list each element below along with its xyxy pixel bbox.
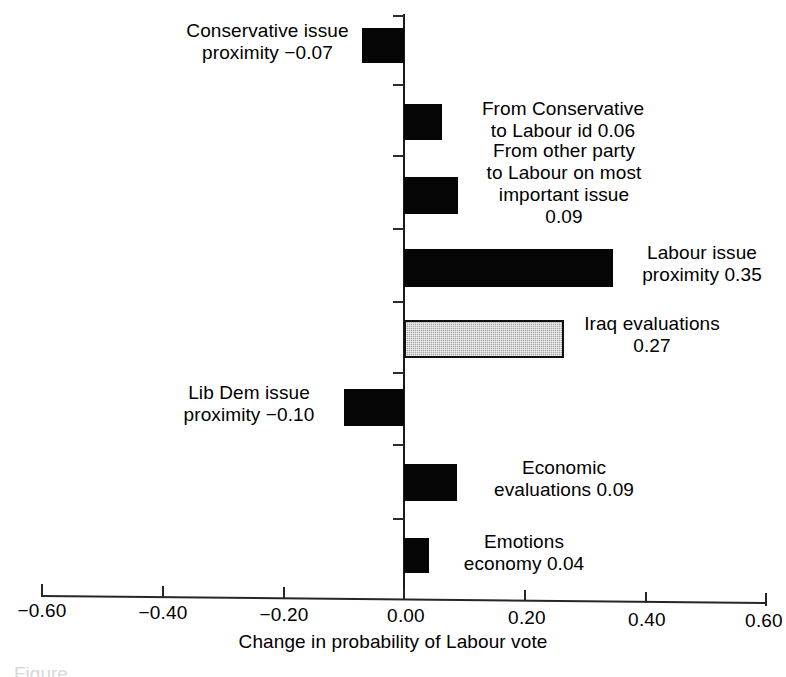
- y-tick-2: [393, 155, 404, 157]
- bar-label-conservative-to-labour-id: From Conservative to Labour id 0.06: [448, 98, 678, 142]
- bar-label-other-party-to-labour-most-important-issue: From other party to Labour on most impor…: [448, 140, 680, 228]
- x-tick-label--0.40: −0.40: [123, 602, 203, 624]
- bar-emotions-economy[interactable]: [404, 538, 429, 573]
- bar-label-conservative-issue-proximity: Conservative issue proximity −0.07: [180, 20, 355, 64]
- y-tick-6: [393, 444, 404, 446]
- y-tick-4: [393, 301, 404, 303]
- x-tick-label-0.20: 0.20: [487, 607, 567, 629]
- x-tick-mark--0.20: [283, 587, 285, 598]
- y-tick-5: [393, 372, 404, 374]
- x-tick-mark-0.00: [403, 589, 405, 600]
- bar-labour-issue-proximity[interactable]: [404, 249, 613, 287]
- figure-caption-sliver: Figure: [14, 663, 314, 677]
- y-tick-1: [393, 84, 404, 86]
- figure-container: Conservative issue proximity −0.07 From …: [0, 0, 786, 677]
- bar-label-emotions-economy: Emotions economy 0.04: [434, 531, 614, 575]
- x-tick-label-0.00: 0.00: [366, 605, 446, 627]
- x-tick-mark-0.20: [524, 590, 526, 601]
- x-tick-label--0.20: −0.20: [244, 604, 324, 626]
- bar-economic-evaluations[interactable]: [404, 464, 457, 501]
- bar-chart-plot: Conservative issue proximity −0.07 From …: [0, 0, 786, 677]
- bar-lib-dem-issue-proximity[interactable]: [344, 389, 404, 426]
- x-tick-mark--0.40: [162, 586, 164, 597]
- x-tick-label-0.40: 0.40: [607, 609, 687, 631]
- zero-axis-line: [403, 14, 405, 597]
- x-axis-title: Change in probability of Labour vote: [0, 631, 786, 653]
- bar-label-iraq-evaluations: Iraq evaluations 0.27: [568, 313, 736, 357]
- y-tick-3: [393, 228, 404, 230]
- bar-iraq-evaluations[interactable]: [404, 320, 564, 358]
- bar-conservative-to-labour-id[interactable]: [404, 104, 442, 140]
- x-tick-mark-0.40: [645, 592, 647, 603]
- bar-conservative-issue-proximity[interactable]: [362, 28, 404, 63]
- bar-label-economic-evaluations: Economic evaluations 0.09: [464, 457, 664, 501]
- x-tick-label-0.60: 0.60: [724, 610, 786, 632]
- y-tick-7: [393, 518, 404, 520]
- bar-label-labour-issue-proximity: Labour issue proximity 0.35: [618, 242, 786, 286]
- y-tick-0: [393, 15, 404, 17]
- x-tick-mark--0.60: [41, 584, 43, 597]
- x-tick-label--0.60: −0.60: [2, 600, 82, 622]
- bar-label-lib-dem-issue-proximity: Lib Dem issue proximity −0.10: [160, 382, 338, 426]
- x-tick-mark-0.60: [765, 593, 767, 606]
